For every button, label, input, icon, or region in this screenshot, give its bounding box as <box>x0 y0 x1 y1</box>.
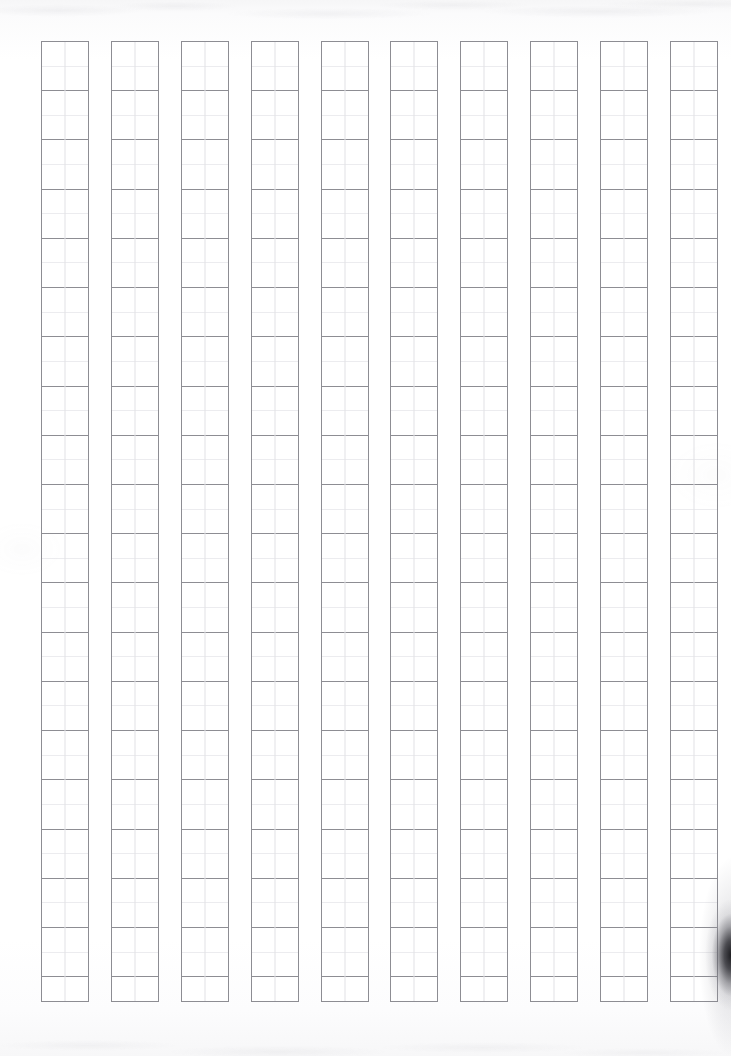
grid-cell[interactable] <box>461 91 507 116</box>
grid-cell[interactable] <box>112 583 158 608</box>
grid-cell[interactable] <box>601 682 647 707</box>
grid-cell[interactable] <box>601 362 647 387</box>
grid-cell[interactable] <box>182 903 228 928</box>
grid-cell[interactable] <box>461 42 507 67</box>
grid-cell[interactable] <box>391 682 437 707</box>
grid-cell[interactable] <box>112 239 158 264</box>
grid-cell[interactable] <box>322 190 368 215</box>
grid-cell[interactable] <box>252 91 298 116</box>
grid-cell[interactable] <box>182 633 228 658</box>
grid-cell[interactable] <box>671 42 717 67</box>
grid-cell[interactable] <box>601 583 647 608</box>
grid-cell[interactable] <box>531 953 577 978</box>
grid-cell[interactable] <box>461 903 507 928</box>
grid-cell[interactable] <box>461 263 507 288</box>
grid-cell[interactable] <box>42 165 88 190</box>
grid-cell[interactable] <box>391 510 437 535</box>
grid-cell[interactable] <box>252 140 298 165</box>
grid-cell[interactable] <box>671 608 717 633</box>
grid-cell[interactable] <box>112 879 158 904</box>
grid-cell[interactable] <box>182 534 228 559</box>
grid-cell[interactable] <box>112 460 158 485</box>
grid-cell[interactable] <box>391 116 437 141</box>
grid-cell[interactable] <box>671 362 717 387</box>
grid-cell[interactable] <box>252 903 298 928</box>
grid-cell[interactable] <box>671 928 717 953</box>
grid-cell[interactable] <box>252 706 298 731</box>
grid-cell[interactable] <box>322 91 368 116</box>
grid-cell[interactable] <box>601 67 647 92</box>
grid-cell[interactable] <box>531 633 577 658</box>
grid-cell[interactable] <box>252 953 298 978</box>
grid-cell[interactable] <box>391 239 437 264</box>
grid-cell[interactable] <box>322 731 368 756</box>
grid-cell[interactable] <box>322 977 368 1001</box>
grid-cell[interactable] <box>322 140 368 165</box>
grid-cell[interactable] <box>531 362 577 387</box>
grid-cell[interactable] <box>42 485 88 510</box>
grid-cell[interactable] <box>601 756 647 781</box>
grid-cell[interactable] <box>182 313 228 338</box>
grid-cell[interactable] <box>252 485 298 510</box>
grid-cell[interactable] <box>42 140 88 165</box>
grid-cell[interactable] <box>112 608 158 633</box>
grid-cell[interactable] <box>112 510 158 535</box>
grid-cell[interactable] <box>601 337 647 362</box>
grid-cell[interactable] <box>531 608 577 633</box>
grid-cell[interactable] <box>112 854 158 879</box>
grid-cell[interactable] <box>461 362 507 387</box>
grid-cell[interactable] <box>322 337 368 362</box>
grid-cell[interactable] <box>601 288 647 313</box>
grid-cell[interactable] <box>601 854 647 879</box>
grid-cell[interactable] <box>601 239 647 264</box>
grid-cell[interactable] <box>112 830 158 855</box>
grid-column[interactable] <box>530 41 578 1002</box>
grid-cell[interactable] <box>531 903 577 928</box>
grid-cell[interactable] <box>112 190 158 215</box>
grid-cell[interactable] <box>42 313 88 338</box>
grid-cell[interactable] <box>671 67 717 92</box>
grid-cell[interactable] <box>112 780 158 805</box>
grid-cell[interactable] <box>671 903 717 928</box>
grid-cell[interactable] <box>252 362 298 387</box>
grid-cell[interactable] <box>112 928 158 953</box>
grid-cell[interactable] <box>252 214 298 239</box>
grid-cell[interactable] <box>601 706 647 731</box>
grid-cell[interactable] <box>252 411 298 436</box>
grid-cell[interactable] <box>671 190 717 215</box>
grid-cell[interactable] <box>112 362 158 387</box>
grid-cell[interactable] <box>182 116 228 141</box>
grid-cell[interactable] <box>531 879 577 904</box>
grid-cell[interactable] <box>601 436 647 461</box>
grid-cell[interactable] <box>322 608 368 633</box>
grid-cell[interactable] <box>322 706 368 731</box>
grid-cell[interactable] <box>601 313 647 338</box>
grid-cell[interactable] <box>322 67 368 92</box>
grid-cell[interactable] <box>671 559 717 584</box>
grid-cell[interactable] <box>322 756 368 781</box>
grid-cell[interactable] <box>252 510 298 535</box>
grid-cell[interactable] <box>112 953 158 978</box>
grid-cell[interactable] <box>671 805 717 830</box>
grid-cell[interactable] <box>671 239 717 264</box>
grid-cell[interactable] <box>601 510 647 535</box>
grid-cell[interactable] <box>252 879 298 904</box>
grid-cell[interactable] <box>671 953 717 978</box>
grid-cell[interactable] <box>391 559 437 584</box>
grid-cell[interactable] <box>601 977 647 1001</box>
grid-cell[interactable] <box>391 953 437 978</box>
grid-cell[interactable] <box>252 436 298 461</box>
grid-cell[interactable] <box>671 879 717 904</box>
grid-cell[interactable] <box>461 337 507 362</box>
grid-cell[interactable] <box>112 805 158 830</box>
grid-cell[interactable] <box>182 190 228 215</box>
grid-cell[interactable] <box>252 534 298 559</box>
grid-column[interactable] <box>321 41 369 1002</box>
grid-cell[interactable] <box>601 830 647 855</box>
grid-cell[interactable] <box>461 731 507 756</box>
grid-cell[interactable] <box>42 510 88 535</box>
grid-cell[interactable] <box>461 780 507 805</box>
grid-cell[interactable] <box>322 387 368 412</box>
grid-cell[interactable] <box>42 633 88 658</box>
grid-cell[interactable] <box>182 583 228 608</box>
